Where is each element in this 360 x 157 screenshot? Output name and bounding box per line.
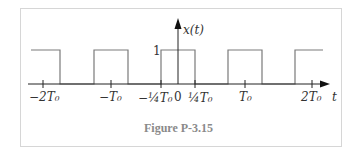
figure-caption: Figure P-3.15 xyxy=(144,121,213,135)
waveform xyxy=(31,50,323,84)
amplitude-label: 1 xyxy=(153,44,161,58)
tick-label-T0: T₀ xyxy=(239,90,252,104)
tick-label-neg-2T0: −2T₀ xyxy=(29,90,60,104)
time-axis-arrow-icon xyxy=(320,81,330,88)
tick-label-quarter-T0: ¼T₀ xyxy=(188,91,213,105)
pulse-train-diagram: x(t) 1 −2T₀ −T₀ −¼T₀ 0 ¼T₀ T₀ 2T₀ t Figu… xyxy=(0,0,360,157)
signal-label: x(t) xyxy=(183,23,204,37)
amplitude-axis-arrow-icon xyxy=(175,18,182,29)
origin-label: 0 xyxy=(174,90,182,104)
time-axis-label: t xyxy=(332,90,337,104)
tick-label-2T0: 2T₀ xyxy=(300,90,322,104)
tick-label-neg-quarter-T0: −¼T₀ xyxy=(138,91,173,105)
tick-label-neg-T0: −T₀ xyxy=(99,90,122,104)
